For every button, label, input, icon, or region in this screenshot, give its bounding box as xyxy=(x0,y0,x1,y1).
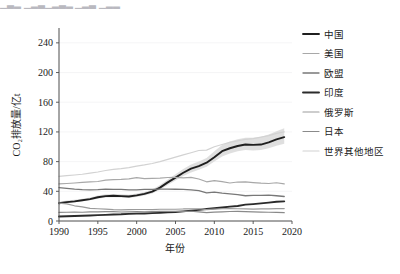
band-中国 xyxy=(59,128,284,204)
line-世界其他地区 xyxy=(59,132,284,177)
uncertainty-bands xyxy=(59,128,284,204)
y-tick-label: 40 xyxy=(43,186,53,197)
y-tick-label: 160 xyxy=(38,97,53,108)
y-tick-label: 200 xyxy=(38,67,53,78)
legend-label-俄罗斯[interactable]: 俄罗斯 xyxy=(324,107,354,118)
legend-label-美国[interactable]: 美国 xyxy=(324,48,344,59)
axis-spines xyxy=(59,28,292,221)
x-axis-title: 年份 xyxy=(165,242,185,254)
x-tick-label: 2000 xyxy=(127,226,147,237)
legend-label-日本[interactable]: 日本 xyxy=(324,126,344,137)
series-lines xyxy=(59,132,284,217)
legend-label-世界其他地区[interactable]: 世界其他地区 xyxy=(324,146,384,157)
x-tick-label: 2015 xyxy=(243,226,263,237)
y-tick-label: 0 xyxy=(48,216,53,227)
co2-emissions-line-chart: 04080120160200240 1990199520002005201020… xyxy=(0,0,400,274)
x-tick-label: 1990 xyxy=(49,226,69,237)
x-tick-label: 2020 xyxy=(282,226,302,237)
legend-label-欧盟[interactable]: 欧盟 xyxy=(324,68,344,79)
legend-label-中国[interactable]: 中国 xyxy=(324,29,344,40)
x-tick-label: 1995 xyxy=(88,226,108,237)
x-tick-label: 2010 xyxy=(204,226,224,237)
line-欧盟 xyxy=(59,188,284,197)
chart-svg: 04080120160200240 1990199520002005201020… xyxy=(0,0,400,274)
y-tick-label: 120 xyxy=(38,126,53,137)
legend: 中国美国欧盟印度俄罗斯日本世界其他地区 xyxy=(303,29,384,157)
y-tick-labels: 04080120160200240 xyxy=(38,37,59,226)
legend-label-印度[interactable]: 印度 xyxy=(324,87,344,98)
gridlines xyxy=(59,43,292,191)
y-tick-label: 240 xyxy=(38,37,53,48)
y-axis-title: CO₂排放量/亿t xyxy=(10,93,22,156)
y-tick-label: 80 xyxy=(43,156,53,167)
x-tick-labels: 1990199520002005201020152020 xyxy=(49,221,302,237)
x-tick-label: 2005 xyxy=(166,226,186,237)
